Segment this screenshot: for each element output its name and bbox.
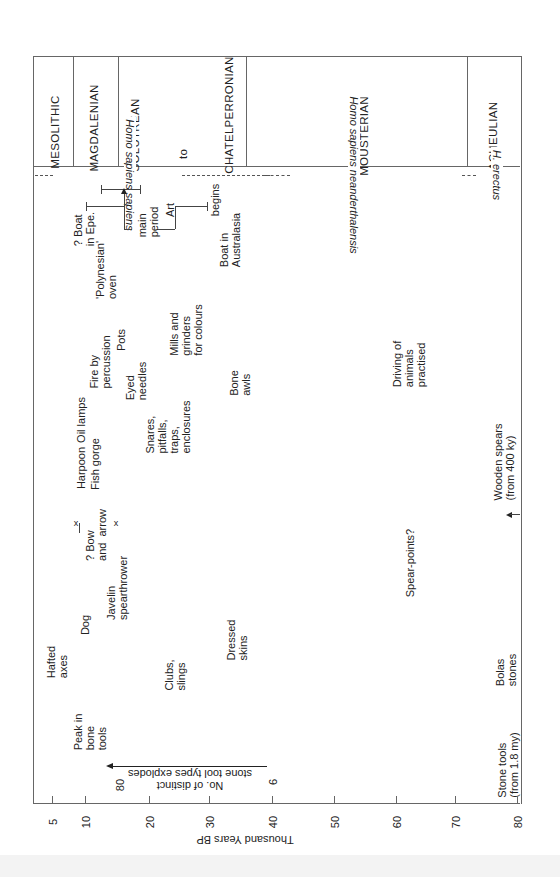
species-h-erectus: H. erectus xyxy=(491,147,503,203)
axis-tick-label: 5 xyxy=(47,819,59,825)
label-javelin-spearthrower: Javelin spearthrower xyxy=(105,556,129,620)
axis-tick xyxy=(396,796,397,803)
label-clubs-slings: Clubs, slings xyxy=(163,659,187,690)
culture-divider xyxy=(118,56,119,166)
header-divider xyxy=(33,166,520,167)
culture-divider xyxy=(73,56,74,166)
label-boat-australasia: Boat in Australasia xyxy=(218,213,242,267)
label-eyed-needles: Eyed needles xyxy=(124,362,148,401)
axis-tick-label: 10 xyxy=(80,816,92,828)
label-stone-tools: Stone tools (from 1.8 my) xyxy=(496,732,520,797)
time-axis-line xyxy=(33,803,520,804)
label-pots: Pots xyxy=(115,329,127,351)
label-dog: Dog xyxy=(79,615,91,635)
axis-tick-label: 50 xyxy=(329,816,341,828)
label-fish-gorge: Fish gorge xyxy=(89,438,101,490)
label-mills-grinders: Mills and grinders for colours xyxy=(168,304,204,355)
label-bone-awls: Bone awls xyxy=(228,370,252,396)
axis-tick xyxy=(85,796,86,803)
label-hafted-axes: Hafted axes xyxy=(45,646,69,678)
label-peak-bone-tools: Peak in bone tools xyxy=(72,714,108,751)
culture-chatelperronian: CHATELPERRONIAN xyxy=(223,56,235,173)
label-bolas-stones: Bolas stones xyxy=(494,654,518,686)
label-count-80: 80 xyxy=(114,779,126,791)
label-art-begins: begins xyxy=(209,184,221,216)
wooden-spears-pointer xyxy=(510,514,520,515)
label-count-6: 6 xyxy=(267,779,279,785)
label-oil-lamps: Oil lamps xyxy=(75,397,87,443)
axis-tick-label: 80 xyxy=(512,816,524,828)
axis-tick xyxy=(149,796,150,803)
axis-tick-label: 30 xyxy=(204,816,216,828)
arrow-left-icon xyxy=(106,763,113,769)
label-spear-points: Spear-points? xyxy=(404,529,416,598)
chart-frame xyxy=(33,56,522,804)
axis-tick-label: 40 xyxy=(267,816,279,828)
label-stone-tool-types-explode: No. of distinct stone tool types explode… xyxy=(128,768,252,792)
art-begins-bar xyxy=(175,206,208,207)
axis-tick-label: 60 xyxy=(391,816,403,828)
axis-tick xyxy=(455,796,456,803)
art-range-bar-2 xyxy=(86,206,124,207)
species-dash xyxy=(35,175,53,176)
label-wooden-spears: Wooden spears (from 400 ky) xyxy=(492,424,516,501)
species-homo-sapiens-sapiens: Homo sapiens sapiens xyxy=(124,116,136,233)
art-begins-cap xyxy=(207,202,208,211)
label-fire-percussion: Fire by percussion xyxy=(88,335,112,388)
bow-range-line xyxy=(79,523,80,533)
culture-to: to xyxy=(177,149,189,159)
axis-title: Thousand Years BP xyxy=(196,834,293,846)
label-boat-epe: ? Boat in Epe. xyxy=(72,212,96,246)
axis-tick-label: 20 xyxy=(144,816,156,828)
culture-magdalenian: MAGDALENIAN xyxy=(88,84,100,171)
art-range-cap xyxy=(86,202,87,211)
bow-range-start-mark: x xyxy=(74,518,79,528)
art-range-cap xyxy=(101,185,102,194)
culture-divider xyxy=(246,56,247,166)
culture-divider xyxy=(467,56,468,166)
arrow-left-icon xyxy=(506,512,512,518)
art-main-connector xyxy=(124,194,125,230)
label-polynesian-oven: 'Polynesian' oven xyxy=(94,241,118,299)
culture-mesolithic: MESOLITHIC xyxy=(49,95,61,168)
axis-tick xyxy=(334,796,335,803)
label-driving-animals: Driving of animals practised xyxy=(391,341,427,387)
label-harpoon: Harpoon xyxy=(75,447,87,489)
label-art: Art xyxy=(164,203,176,217)
species-dash xyxy=(265,175,290,176)
page-edge-shadow xyxy=(0,855,560,877)
axis-tick xyxy=(517,796,518,803)
axis-tick xyxy=(52,796,53,803)
axis-tick xyxy=(272,796,273,803)
species-dash xyxy=(182,175,270,176)
label-snares-pitfalls: Snares, pitfalls, traps, enclosures xyxy=(144,400,192,453)
stone-types-arrow-shaft xyxy=(112,766,267,767)
species-neanderthalensis: Homo sapiens neanderthalensis xyxy=(348,93,360,256)
label-bow-arrow: ? Bow and arrow xyxy=(84,509,108,561)
art-range-cap xyxy=(140,185,141,194)
axis-tick xyxy=(209,796,210,803)
label-main-period: main period xyxy=(136,207,160,238)
art-main-tick xyxy=(124,229,132,230)
species-dash xyxy=(462,175,476,176)
axis-tick-label: 70 xyxy=(450,816,462,828)
label-dressed-skins: Dressed skins xyxy=(225,620,249,661)
bow-range-end-mark: x xyxy=(114,518,119,528)
